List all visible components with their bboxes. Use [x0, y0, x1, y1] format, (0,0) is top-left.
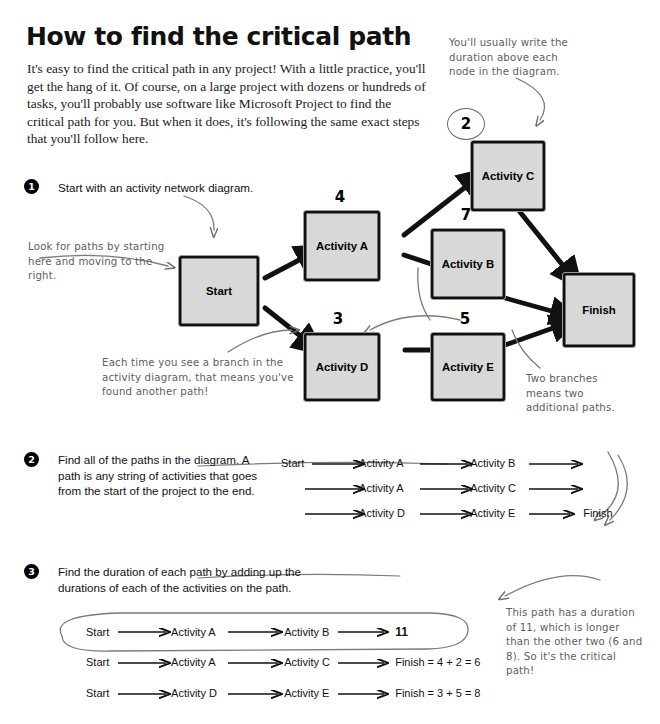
path-node-1: Start: [281, 457, 356, 469]
duration-node-2: Activity D: [171, 687, 281, 699]
annotation-branch-note: Each time you see a branch in the activi…: [102, 356, 294, 400]
node-finish[interactable]: Finish: [562, 272, 636, 348]
duration-activity-e: 5: [430, 310, 500, 328]
annotation-duration-note: You'll usually write the duration above …: [449, 36, 579, 80]
intro-paragraph: It's easy to find the critical path in a…: [27, 60, 427, 148]
step-marker-2: 2: [24, 452, 39, 467]
node-activity-e[interactable]: Activity E: [430, 332, 506, 402]
step-text-1: Start with an activity network diagram.: [58, 180, 288, 196]
path-node-2: Activity A: [359, 457, 467, 469]
path-node-3: Activity E: [470, 507, 580, 519]
duration-node-2: Activity A: [171, 656, 281, 668]
duration-node-3: Activity B: [284, 626, 392, 638]
duration-row: Start Activity D Activity E Finish = 3 +…: [86, 687, 481, 699]
duration-node-3: Activity E: [284, 687, 392, 699]
duration-node-1: Start: [86, 656, 168, 668]
annotation-critical-path-note: This path has a duration of 11, which is…: [506, 606, 646, 679]
duration-row: Start Activity A Activity C Finish = 4 +…: [86, 656, 481, 668]
node-activity-b[interactable]: Activity B: [430, 228, 506, 300]
node-activity-a[interactable]: Activity A: [303, 210, 381, 282]
duration-node-3: Activity C: [284, 656, 392, 668]
step-marker-3: 3: [24, 564, 39, 579]
duration-node-1: Start: [86, 626, 168, 638]
path-node-4: Finish: [583, 507, 612, 519]
node-activity-c[interactable]: Activity C: [470, 140, 546, 212]
path-row: Start Activity A Activity B: [281, 457, 580, 469]
path-node-2: Activity A: [359, 482, 467, 494]
step-marker-1: 1: [24, 179, 39, 194]
duration-activity-c: 2: [447, 108, 485, 140]
step-text-2: Find all of the paths in the diagram. A …: [58, 452, 273, 499]
path-row: Activity D Activity E Finish: [281, 507, 613, 519]
path-row: Activity A Activity C: [281, 482, 580, 494]
annotation-look-for-paths-note: Look for paths by starting here and movi…: [28, 240, 168, 284]
duration-result: 11: [395, 625, 408, 639]
page-title: How to find the critical path: [26, 22, 411, 51]
path-node-3: Activity C: [470, 482, 580, 494]
book-page: How to find the critical path It's easy …: [0, 0, 660, 724]
node-activity-d[interactable]: Activity D: [303, 332, 381, 402]
duration-activity-d: 3: [303, 310, 373, 328]
duration-node-2: Activity A: [171, 626, 281, 638]
duration-activity-a: 4: [305, 188, 375, 206]
step-text-3: Find the duration of each path by adding…: [58, 564, 308, 595]
duration-node-1: Start: [86, 687, 168, 699]
path-node-2: Activity D: [359, 507, 467, 519]
duration-result: Finish = 3 + 5 = 8: [395, 687, 480, 699]
node-start[interactable]: Start: [178, 255, 260, 327]
annotation-two-branches-note: Two branches means two additional paths.: [526, 372, 636, 416]
duration-result: Finish = 4 + 2 = 6: [395, 656, 480, 668]
duration-row: Start Activity A Activity B 11: [86, 625, 408, 639]
path-node-3: Activity B: [470, 457, 580, 469]
